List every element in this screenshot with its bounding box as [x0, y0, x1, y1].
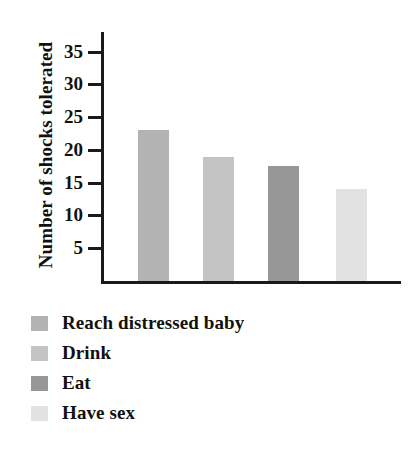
legend-label: Have sex [62, 402, 135, 424]
bar [138, 130, 169, 281]
y-tick-mark [88, 51, 101, 54]
legend-label: Eat [62, 372, 91, 394]
y-tick-label: 35 [49, 42, 83, 61]
y-tick-5: 5 [0, 247, 101, 250]
y-tick-mark [88, 116, 101, 119]
bar-chart-figure: Number of shocks tolerated 5101520253035… [0, 0, 418, 474]
plot-area: 5101520253035 [0, 0, 418, 300]
y-tick-35: 35 [0, 51, 101, 54]
chart-legend: Reach distressed babyDrinkEatHave sex [31, 308, 391, 428]
x-axis-line [101, 281, 401, 284]
legend-item: Drink [31, 338, 391, 368]
y-tick-label: 15 [49, 173, 83, 192]
legend-swatch-icon [31, 346, 48, 361]
legend-item: Eat [31, 368, 391, 398]
y-tick-15: 15 [0, 182, 101, 185]
y-tick-mark [88, 247, 101, 250]
y-tick-mark [88, 83, 101, 86]
bar [268, 166, 299, 281]
y-tick-10: 10 [0, 214, 101, 217]
legend-swatch-icon [31, 316, 48, 331]
y-tick-label: 10 [49, 205, 83, 224]
y-tick-label: 25 [49, 107, 83, 126]
y-tick-label: 5 [49, 238, 83, 257]
y-tick-mark [88, 182, 101, 185]
bars-layer [101, 32, 401, 281]
legend-label: Drink [62, 342, 111, 364]
legend-swatch-icon [31, 376, 48, 391]
legend-item: Have sex [31, 398, 391, 428]
y-tick-label: 20 [49, 140, 83, 159]
y-tick-mark [88, 214, 101, 217]
y-tick-mark [88, 149, 101, 152]
legend-swatch-icon [31, 406, 48, 421]
legend-item: Reach distressed baby [31, 308, 391, 338]
bar [336, 189, 367, 281]
y-tick-label: 30 [49, 74, 83, 93]
legend-label: Reach distressed baby [62, 312, 244, 334]
y-tick-20: 20 [0, 149, 101, 152]
y-tick-30: 30 [0, 83, 101, 86]
y-tick-25: 25 [0, 116, 101, 119]
bar [203, 157, 234, 282]
